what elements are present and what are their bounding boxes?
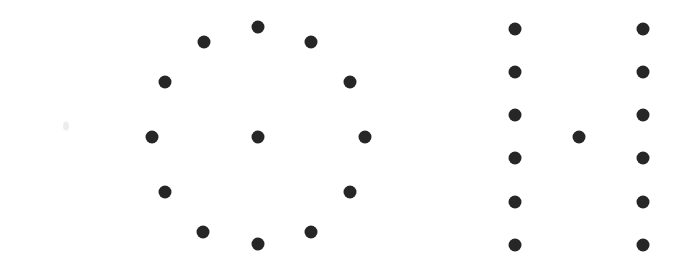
faint-mark-layer [0,0,693,265]
dot-pattern-figure [0,0,693,265]
faint-speck-icon [63,122,69,131]
